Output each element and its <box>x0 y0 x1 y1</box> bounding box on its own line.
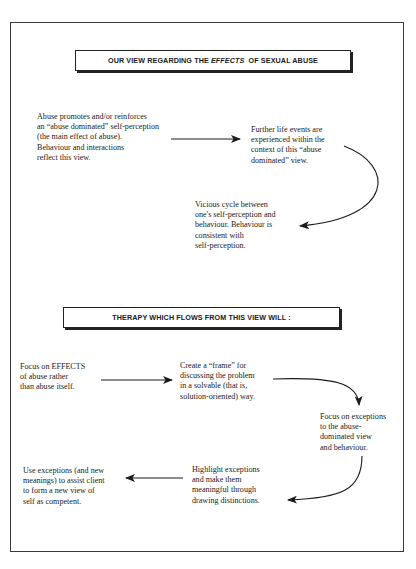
flow-arrows <box>0 0 416 569</box>
arrow-frame-to-exceptions <box>273 379 359 405</box>
arrow-exceptions-to-highlight <box>288 456 362 500</box>
arrow-life-events-to-cycle <box>300 146 378 226</box>
